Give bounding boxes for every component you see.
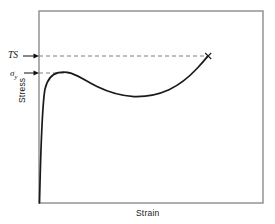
- stress-strain-figure: TS σy Stress Strain: [0, 0, 275, 224]
- x-axis-label: Strain: [136, 208, 159, 218]
- y-axis-label: Stress: [17, 78, 27, 103]
- yield-arrow-icon: [24, 70, 39, 75]
- ts-arrow-icon: [23, 53, 39, 58]
- plot-frame: [39, 11, 263, 203]
- plot-canvas: [0, 0, 275, 224]
- ts-label: TS: [8, 50, 18, 60]
